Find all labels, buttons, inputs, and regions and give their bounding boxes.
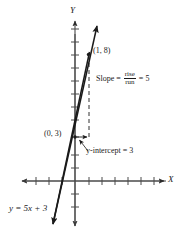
graph-figure: Y X (1, 8) (0, 3) Slope = rise run = 5 y…: [0, 0, 180, 238]
slope-value-label: 5: [145, 75, 149, 83]
slope-prefix-label: Slope: [96, 75, 114, 83]
y-axis-label: Y: [70, 6, 75, 15]
point-0-3: [73, 135, 76, 138]
slope-annotation: Slope = rise run = 5: [96, 71, 149, 87]
point-label-1-8: (1, 8): [93, 47, 110, 55]
slope-equals-sign-2: =: [139, 75, 144, 83]
x-axis: [22, 177, 166, 185]
point-1-8: [87, 53, 90, 56]
x-axis-label: X: [168, 175, 174, 184]
run-label: run: [124, 79, 136, 86]
point-label-0-3: (0, 3): [44, 130, 61, 138]
equation-label: y = 5x + 3: [9, 204, 47, 213]
slope-equals-sign: =: [116, 75, 121, 83]
y-intercept-annotation: y-intercept = 3: [86, 147, 133, 155]
rise-over-run-fraction: rise run: [124, 71, 136, 87]
